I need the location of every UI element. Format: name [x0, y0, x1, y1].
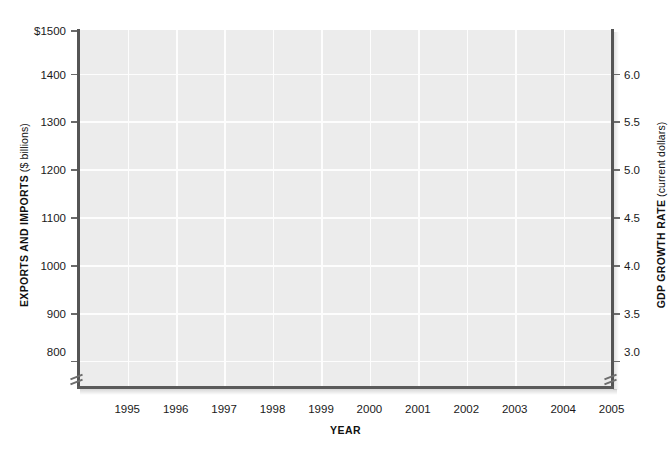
- x-axis-tick-label: 1999: [297, 404, 345, 416]
- x-axis-tick-label: 2004: [539, 404, 587, 416]
- gridline-vertical: [370, 30, 372, 388]
- right-axis-title-units: (current dollars): [655, 122, 667, 197]
- x-axis-tick-label: 1998: [249, 404, 297, 416]
- tick-mark-left: [71, 121, 77, 123]
- gridline-horizontal: [79, 169, 612, 171]
- right-axis-title-strong: GDP GROWTH RATE: [655, 200, 667, 309]
- gridline-vertical: [224, 30, 226, 388]
- tick-mark-right: [614, 265, 620, 267]
- axis-left-spine: [77, 29, 80, 389]
- left-axis-tick-label: 900: [0, 309, 66, 321]
- gridline-vertical: [321, 30, 323, 388]
- x-axis-tick-label: 1997: [200, 404, 248, 416]
- left-axis-tick-label: 1200: [0, 165, 66, 177]
- gridline-horizontal: [79, 361, 612, 363]
- left-axis-title-units: ($ billions): [18, 123, 30, 172]
- plot-area: [79, 30, 612, 388]
- gridline-horizontal: [79, 313, 612, 315]
- right-axis-tick-label: 6.0: [624, 70, 664, 82]
- x-axis-tick-label: 2005: [588, 404, 636, 416]
- gridline-vertical: [515, 30, 517, 388]
- x-axis-tick-label: 2000: [345, 404, 393, 416]
- chart-figure: $1500 1400 1300 1200 1100 1000 900 800 6…: [0, 0, 671, 450]
- axis-bottom-spine: [77, 386, 614, 389]
- tick-mark-right: [614, 313, 620, 315]
- tick-mark-right: [614, 217, 620, 219]
- left-axis-title-strong: EXPORTS AND IMPORTS: [18, 175, 30, 307]
- tick-mark-right: [614, 121, 620, 123]
- left-axis-tick-label: 1300: [0, 117, 66, 129]
- left-axis-tick-labels: $1500 1400 1300 1200 1100 1000 900 800: [0, 0, 66, 450]
- tick-mark-left: [71, 217, 77, 219]
- x-axis-tick-label: 2003: [491, 404, 539, 416]
- tick-mark-left: [71, 74, 77, 76]
- gridline-vertical: [564, 30, 566, 388]
- left-axis-tick-label: 1000: [0, 261, 66, 273]
- axis-right-spine: [611, 29, 614, 389]
- x-axis-title: YEAR: [79, 424, 612, 436]
- tick-mark-left: [71, 361, 77, 363]
- gridline-horizontal: [79, 121, 612, 123]
- gridline-vertical: [273, 30, 275, 388]
- gridline-vertical: [418, 30, 420, 388]
- x-axis-tick-label: 2001: [394, 404, 442, 416]
- axis-break-icon: [70, 374, 83, 385]
- tick-mark-right: [614, 361, 620, 363]
- x-axis-tick-label: 1996: [152, 404, 200, 416]
- left-axis-tick-label: 800: [0, 347, 66, 359]
- tick-mark-left: [71, 169, 77, 171]
- right-axis-tick-label: 3.0: [624, 347, 664, 359]
- gridline-horizontal: [79, 74, 612, 76]
- tick-mark-left: [71, 265, 77, 267]
- left-axis-tick-label: $1500: [0, 26, 66, 38]
- x-axis-tick-label: 1995: [103, 404, 151, 416]
- axis-break-icon: [604, 374, 617, 385]
- tick-mark-left: [71, 30, 77, 32]
- x-axis-tick-label: 2002: [442, 404, 490, 416]
- gridline-horizontal: [79, 265, 612, 267]
- panel-shadow: [80, 389, 617, 395]
- left-axis-tick-label: 1100: [0, 213, 66, 225]
- tick-mark-right: [614, 74, 620, 76]
- gridline-vertical: [467, 30, 469, 388]
- right-axis-title: GDP GROWTH RATE (current dollars): [655, 100, 667, 330]
- left-axis-tick-label: 1400: [0, 70, 66, 82]
- gridline-vertical: [176, 30, 178, 388]
- tick-mark-left: [71, 313, 77, 315]
- left-axis-title: EXPORTS AND IMPORTS ($ billions): [18, 115, 30, 315]
- gridline-vertical: [128, 30, 130, 388]
- tick-mark-right: [614, 169, 620, 171]
- gridline-horizontal: [79, 217, 612, 219]
